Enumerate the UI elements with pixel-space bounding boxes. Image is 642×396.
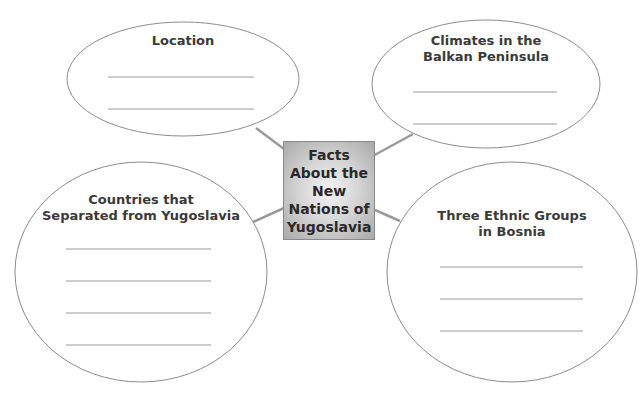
climates-title: Climates in the Balkan Peninsula: [386, 33, 586, 65]
ethnic-title: Three Ethnic Groups in Bosnia: [412, 208, 612, 240]
countries-title: Countries that Separated from Yugoslavia: [31, 192, 251, 224]
ethnic-title-line-2: in Bosnia: [412, 224, 612, 240]
location-title: Location: [83, 33, 283, 49]
location-title-line-1: Location: [83, 33, 283, 49]
ethnic-bubble: [387, 162, 637, 382]
climates-title-line-2: Balkan Peninsula: [386, 49, 586, 65]
center-topic-title: Facts About the New Nations of Yugoslavi…: [284, 146, 374, 236]
countries-title-line-1: Countries that: [31, 192, 251, 208]
connector-countries: [253, 208, 284, 222]
connector-climates: [371, 134, 413, 157]
climates-title-line-1: Climates in the: [386, 33, 586, 49]
center-topic-box: Facts About the New Nations of Yugoslavi…: [283, 141, 375, 240]
connector-ethnic: [375, 210, 400, 221]
countries-title-line-2: Separated from Yugoslavia: [31, 208, 251, 224]
ethnic-title-line-1: Three Ethnic Groups: [412, 208, 612, 224]
